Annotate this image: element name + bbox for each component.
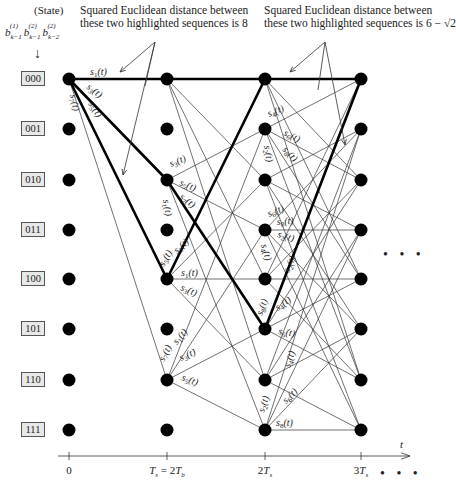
- state-label-100: 100: [21, 271, 45, 286]
- annotation-arrow: [290, 42, 325, 72]
- trellis-node: [161, 323, 174, 336]
- trellis-node: [355, 73, 368, 86]
- axis-tick-label: 2Ts: [258, 464, 272, 479]
- axis-tick-label: Ts = 2Tb: [149, 464, 185, 479]
- state-label-110: 110: [21, 372, 45, 387]
- caption-left-line-2: these two highlighted sequences is 8: [80, 17, 248, 30]
- trellis-node: [63, 123, 76, 136]
- trellis-node: [63, 424, 76, 437]
- branch-label: s4(t): [257, 243, 274, 263]
- axis-tick-label: 0: [66, 464, 72, 476]
- caption-left: Squared Euclidean distance between these…: [80, 4, 248, 30]
- trellis-branch: [265, 129, 361, 430]
- annotation-arrow: [123, 42, 155, 175]
- axis-tick-label: 3Ts: [354, 464, 368, 479]
- branch-label: s3(t): [168, 152, 189, 171]
- trellis-node: [63, 224, 76, 237]
- trellis-node: [161, 374, 174, 387]
- trellis-node: [161, 73, 174, 86]
- trellis-node: [161, 174, 174, 187]
- trellis-node: [63, 273, 76, 286]
- branch-label: s8(t): [254, 296, 272, 317]
- branch-label: s1(t): [90, 66, 108, 79]
- state-bit-1: bk−1(1): [5, 26, 18, 38]
- branch-label: s3(t): [179, 282, 200, 301]
- branch-label: s1(t): [159, 198, 175, 218]
- branch-label: s2(t): [276, 228, 296, 245]
- branch-label: s2(t): [260, 144, 276, 164]
- trellis-node: [63, 323, 76, 336]
- caption-right-line-2: these two highlighted sequences is 6 − √…: [264, 17, 456, 30]
- trellis-node: [161, 424, 174, 437]
- axis-variable-label: t: [400, 438, 403, 450]
- time-axis: [58, 452, 410, 460]
- trellis-branch: [167, 79, 265, 180]
- caption-right: Squared Euclidean distance between these…: [264, 4, 456, 30]
- state-header: (State): [34, 4, 63, 16]
- state-bit-2: bk−1(2): [24, 26, 37, 38]
- trellis-node: [259, 224, 272, 237]
- state-label-011: 011: [21, 222, 45, 237]
- state-bit-3: bk−2(2): [43, 26, 56, 38]
- state-label-010: 010: [21, 172, 45, 187]
- trellis-branch: [69, 79, 167, 380]
- down-arrow-icon: ↓: [34, 46, 41, 62]
- caption-left-line-1: Squared Euclidean distance between: [80, 4, 248, 17]
- branch-label: s8(t): [276, 215, 294, 229]
- trellis-branch: [167, 380, 265, 430]
- highlighted-paths: [69, 79, 361, 329]
- branch-label: s7(t): [156, 342, 176, 364]
- highlighted-branch: [69, 79, 167, 180]
- trellis-node: [259, 374, 272, 387]
- branch-label: s1(t): [181, 267, 199, 280]
- branch-label: s3(t): [171, 236, 193, 257]
- trellis-node: [259, 123, 272, 136]
- trellis-node: [355, 273, 368, 286]
- highlighted-branch: [69, 79, 167, 279]
- state-label-111: 111: [21, 422, 45, 437]
- state-label-101: 101: [21, 321, 45, 336]
- trellis-node: [355, 123, 368, 136]
- annotation-arrow: [325, 42, 345, 145]
- trellis-node: [355, 424, 368, 437]
- annotation-arrow: [120, 42, 155, 72]
- trellis-node: [355, 224, 368, 237]
- state-bits-header: bk−1(1) bk−1(2) bk−2(2): [5, 22, 56, 41]
- trellis-node: [161, 273, 174, 286]
- branch-label: s6(t): [280, 385, 302, 407]
- trellis-node: [355, 374, 368, 387]
- trellis-node: [63, 174, 76, 187]
- trellis-node: [63, 374, 76, 387]
- trellis-node: [259, 73, 272, 86]
- trellis-node: [161, 224, 174, 237]
- caption-right-line-1: Squared Euclidean distance between: [264, 4, 456, 17]
- trellis-node: [259, 273, 272, 286]
- branch-label: s3(t): [177, 346, 198, 365]
- trellis-continuation-dots: • • •: [383, 247, 425, 263]
- state-label-001: 001: [21, 121, 45, 136]
- axis-continuation-dots: • • •: [380, 466, 422, 482]
- branch-label: s4(t): [281, 349, 299, 370]
- trellis-node: [355, 323, 368, 336]
- trellis-branch: [265, 79, 361, 180]
- trellis-branch: [265, 329, 361, 430]
- trellis-node: [161, 123, 174, 136]
- state-label-000: 000: [21, 71, 45, 86]
- branch-label: s2(t): [255, 394, 273, 415]
- branch-label: s8(t): [276, 417, 294, 430]
- trellis-node: [63, 73, 76, 86]
- trellis-node: [355, 174, 368, 187]
- trellis-node: [259, 174, 272, 187]
- trellis-node: [259, 424, 272, 437]
- branch-label: s7(t): [66, 93, 82, 113]
- trellis-node: [259, 323, 272, 336]
- branch-label: s5(t): [180, 372, 201, 390]
- annotation-arrow: [318, 42, 325, 90]
- branch-label: s6(t): [277, 325, 297, 341]
